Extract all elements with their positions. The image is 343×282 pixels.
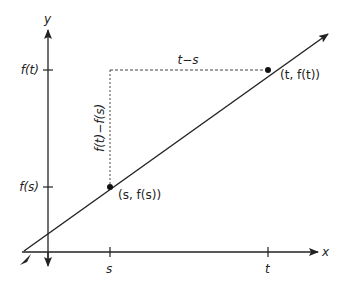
point-t xyxy=(265,67,271,73)
vertical-diff-label: f(t)−f(s) xyxy=(93,104,107,152)
horizontal-diff-label: t−s xyxy=(177,53,198,67)
x-axis-label: x xyxy=(321,245,330,259)
secant-line-diagram: x y s t f(t) f(s) t−s f(t)−f(s) (s, f(s)… xyxy=(0,0,343,282)
tick-label-s: s xyxy=(106,262,112,276)
line-left-arrow xyxy=(20,254,31,265)
point-label-s: (s, f(s)) xyxy=(118,188,161,202)
y-axis-label: y xyxy=(43,12,52,26)
diagram-canvas: x y s t f(t) f(s) t−s f(t)−f(s) (s, f(s)… xyxy=(0,0,343,282)
secant-line xyxy=(24,34,328,251)
tick-label-ft: f(t) xyxy=(21,63,39,77)
point-s xyxy=(107,184,113,190)
tick-label-fs: f(s) xyxy=(19,180,39,194)
point-label-t: (t, f(t)) xyxy=(280,68,320,82)
tick-label-t: t xyxy=(265,262,271,276)
